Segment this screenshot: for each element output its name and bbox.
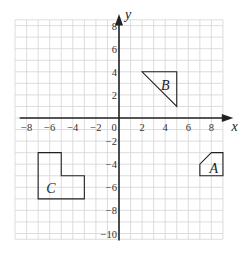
y-tick-label: −6 bbox=[106, 182, 117, 193]
shape-a-label: A bbox=[208, 161, 218, 176]
shape-c-label: C bbox=[46, 181, 56, 196]
y-tick-label: −10 bbox=[101, 229, 117, 240]
y-tick-label: 4 bbox=[112, 67, 118, 78]
x-tick-label: −2 bbox=[90, 122, 101, 133]
x-tick-label: −6 bbox=[44, 122, 55, 133]
y-axis-label: y bbox=[123, 7, 132, 22]
shape-b: B bbox=[142, 72, 177, 107]
x-tick-label: −8 bbox=[21, 122, 32, 133]
coordinate-grid-diagram: x y −8−6−4−2024688642−2−4−6−8−10 ABC bbox=[0, 0, 247, 255]
shape-b-label: B bbox=[161, 78, 170, 93]
x-axis-label: x bbox=[231, 119, 239, 134]
x-tick-label: 2 bbox=[139, 122, 144, 133]
x-tick-label: 4 bbox=[163, 122, 169, 133]
y-tick-label: 8 bbox=[112, 21, 117, 32]
y-tick-label: −4 bbox=[106, 159, 118, 170]
x-tick-label: 8 bbox=[209, 122, 214, 133]
y-tick-label: −2 bbox=[106, 136, 117, 147]
shape-b-outline bbox=[142, 72, 177, 107]
y-tick-label: 6 bbox=[112, 44, 117, 55]
y-tick-label: 2 bbox=[112, 90, 117, 101]
y-tick-label: −8 bbox=[106, 205, 117, 216]
x-tick-label: 6 bbox=[186, 122, 191, 133]
x-tick-label: 0 bbox=[111, 122, 116, 133]
x-tick-label: −4 bbox=[67, 122, 79, 133]
